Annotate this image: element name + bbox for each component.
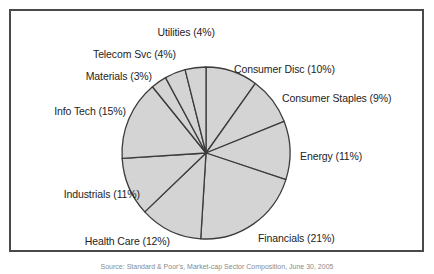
pie-slice-label: Energy (11%) [300,150,362,162]
pie-slice-label: Utilities (4%) [0,26,215,38]
pie-slice-label: Health Care (12%) [0,235,170,247]
pie-slice-label: Consumer Staples (9%) [282,92,391,104]
pie-slice-label: Consumer Disc (10%) [234,63,335,75]
figure-caption: Source: Standard & Poor's, Market-cap Se… [0,263,434,274]
pie-slice-label: Financials (21%) [258,232,335,244]
pie-slice-label: Info Tech (15%) [0,105,126,117]
pie-slice-group [122,67,290,239]
pie-chart-figure: Consumer Disc (10%)Consumer Staples (9%)… [0,0,434,274]
pie-slice-label: Industrials (11%) [0,188,140,200]
pie-slice-label: Materials (3%) [0,70,152,82]
pie-chart-graphic [0,0,434,274]
pie-slice-label: Telecom Svc (4%) [0,48,176,60]
